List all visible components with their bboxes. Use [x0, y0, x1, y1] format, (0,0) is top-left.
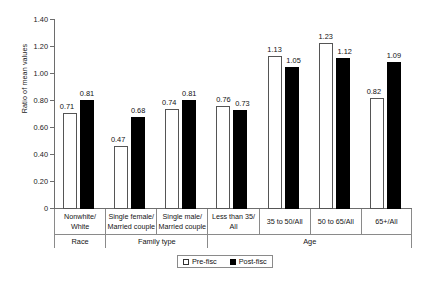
category-label-cell: Single male/Married couple [156, 209, 207, 234]
bar-pre-fisc [63, 113, 77, 209]
legend-label: Pre-fisc [192, 257, 217, 266]
bar-value-label-post-fisc: 1.09 [385, 51, 403, 60]
category-group-label: Family type [105, 234, 207, 248]
y-axis-tick-label: 0.60 [0, 123, 48, 132]
bar-value-label-pre-fisc: 1.23 [317, 32, 335, 41]
bar-pre-fisc [114, 146, 128, 209]
legend-item-post-fisc: Post-fisc [230, 257, 267, 266]
bar-value-label-post-fisc: 0.81 [78, 89, 96, 98]
filled-square-icon [230, 259, 236, 265]
category-label-line: 50 to 65/All [318, 217, 354, 226]
bar-value-label-post-fisc: 1.12 [336, 47, 354, 56]
category-label-line: Married couple [159, 222, 207, 231]
category-label-line: 35 to 50/All [267, 217, 303, 226]
bar-value-label-post-fisc: 1.05 [285, 56, 303, 65]
y-axis-tick-label: 0.80 [0, 96, 48, 105]
bar-post-fisc [387, 62, 401, 209]
bar-post-fisc [182, 100, 196, 209]
category-table-underline [54, 234, 412, 235]
category-label-line: White [71, 222, 89, 231]
category-label-cell: Single female/Married couple [105, 209, 156, 234]
bar-pre-fisc [268, 56, 282, 209]
category-label-line: Single female/ [108, 212, 154, 221]
bar-post-fisc [233, 110, 247, 209]
bar-value-label-post-fisc: 0.73 [233, 99, 251, 108]
bar-pre-fisc [165, 109, 179, 209]
bar-pre-fisc [216, 106, 230, 209]
category-group-label: Age [207, 234, 412, 248]
category-label-cell: Nonwhite/White [54, 209, 105, 234]
plot-area: 0.710.810.470.680.740.810.760.731.131.05… [54, 19, 412, 209]
category-table: Nonwhite/WhiteSingle female/Married coup… [54, 209, 412, 248]
chart-legend: Pre-fisc Post-fisc [177, 255, 273, 268]
category-label-cell: Less than 35/All [207, 209, 258, 234]
bar-post-fisc [336, 58, 350, 209]
category-label-line: All [229, 222, 237, 231]
category-label-line: Married couple [107, 222, 155, 231]
category-label-line: Nonwhite/ [64, 212, 96, 221]
bar-value-label-post-fisc: 0.81 [180, 89, 198, 98]
category-group-label: Race [54, 234, 105, 248]
category-label-cell: 50 to 65/All [310, 209, 361, 234]
bar-value-label-pre-fisc: 0.71 [58, 102, 76, 111]
category-label-cell: 65+/All [361, 209, 412, 234]
bar-pre-fisc [319, 43, 333, 209]
y-axis-tick-label: 1.00 [0, 69, 48, 78]
bar-value-label-pre-fisc: 0.47 [109, 135, 127, 144]
bar-value-label-pre-fisc: 0.82 [365, 87, 383, 96]
y-axis-tick-label: 0.40 [0, 150, 48, 159]
open-square-icon [183, 259, 189, 265]
bar-value-label-post-fisc: 0.68 [129, 106, 147, 115]
y-axis-tick-label: 1.40 [0, 15, 48, 24]
y-axis-tick-label: 0.20 [0, 177, 48, 186]
category-label-line: Less than 35/ [212, 212, 255, 221]
y-axis-tick-label: 0 [0, 204, 48, 213]
category-label-line: Single male/ [163, 212, 203, 221]
bar-post-fisc [131, 117, 145, 209]
bar-post-fisc [285, 67, 299, 209]
bar-post-fisc [80, 100, 94, 209]
bar-chart-figure: Ratio of mean values 00.200.400.600.801.… [0, 0, 438, 283]
category-label-cell: 35 to 50/All [259, 209, 310, 234]
bar-pre-fisc [370, 98, 384, 209]
bar-value-label-pre-fisc: 1.13 [266, 45, 284, 54]
bar-value-label-pre-fisc: 0.76 [214, 95, 232, 104]
legend-label: Post-fisc [239, 257, 267, 266]
bar-value-label-pre-fisc: 0.74 [160, 98, 178, 107]
legend-item-pre-fisc: Pre-fisc [183, 257, 217, 266]
category-label-line: 65+/All [375, 217, 397, 226]
y-axis-tick-label: 1.20 [0, 42, 48, 51]
